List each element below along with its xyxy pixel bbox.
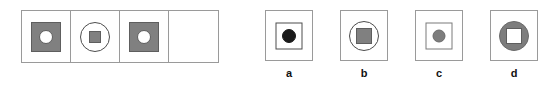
option-c-tile[interactable] bbox=[415, 10, 463, 61]
matrix-cell-2 bbox=[71, 11, 120, 62]
option-d-label: d bbox=[490, 67, 538, 79]
option-a-tile[interactable] bbox=[265, 10, 313, 61]
problem-matrix bbox=[21, 10, 219, 63]
option-b-tile[interactable] bbox=[340, 10, 388, 61]
gray-circle-shape bbox=[433, 29, 446, 42]
white-circle-shape bbox=[39, 30, 53, 44]
option-d-tile[interactable] bbox=[490, 10, 538, 61]
option-d[interactable]: d bbox=[490, 10, 538, 79]
option-b[interactable]: b bbox=[340, 10, 388, 79]
gray-square-shape bbox=[89, 31, 101, 43]
option-a-label: a bbox=[265, 67, 313, 79]
option-c[interactable]: c bbox=[415, 10, 463, 79]
gray-square-shape bbox=[356, 28, 372, 44]
matrix-cell-3 bbox=[120, 11, 169, 62]
matrix-cell-1 bbox=[22, 11, 71, 62]
option-a[interactable]: a bbox=[265, 10, 313, 79]
option-b-label: b bbox=[340, 67, 388, 79]
answer-options: a b c d bbox=[265, 10, 538, 79]
option-c-label: c bbox=[415, 67, 463, 79]
white-square-shape bbox=[506, 28, 522, 44]
white-circle-shape bbox=[137, 30, 151, 44]
black-circle-shape bbox=[282, 29, 296, 43]
matrix-cell-4-blank bbox=[169, 11, 218, 62]
